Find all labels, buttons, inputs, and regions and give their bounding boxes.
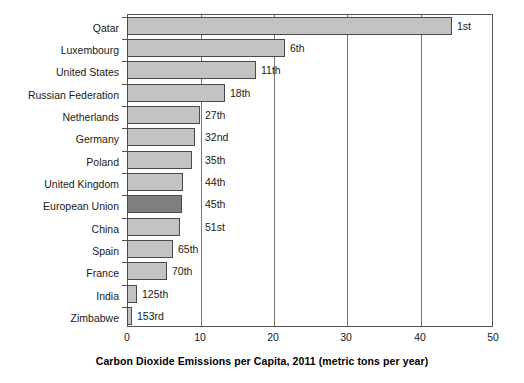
rank-label-united-states: 11th xyxy=(261,65,281,76)
xtick-label-0: 0 xyxy=(124,331,130,343)
rank-label-poland: 35th xyxy=(205,155,225,166)
xtick-label-10: 10 xyxy=(194,331,206,343)
bar-united-states xyxy=(127,61,256,79)
bars-layer: 1st 6th 11th 18th 27th 32nd 35th 44th 45… xyxy=(127,14,493,327)
rank-label-spain: 65th xyxy=(178,244,198,255)
category-label-spain: Spain xyxy=(92,246,119,257)
rank-label-united-kingdom: 44th xyxy=(205,177,225,188)
category-label-european-union: European Union xyxy=(43,201,119,212)
bar-netherlands xyxy=(127,106,200,124)
xtick-label-50: 50 xyxy=(487,331,499,343)
category-label-qatar: Qatar xyxy=(93,23,119,34)
rank-label-china: 51st xyxy=(205,222,225,233)
xtick-label-20: 20 xyxy=(267,331,279,343)
rank-label-russian-federation: 18th xyxy=(230,88,250,99)
category-label-india: India xyxy=(96,291,119,302)
category-label-united-kingdom: United Kingdom xyxy=(44,179,119,190)
bar-european-union xyxy=(127,195,182,213)
co2-per-capita-bar-chart: Qatar Luxembourg United States Russian F… xyxy=(0,0,524,383)
category-label-zimbabwe: Zimbabwe xyxy=(71,313,119,324)
bar-india xyxy=(127,285,137,303)
xtick-label-40: 40 xyxy=(414,331,426,343)
category-label-russian-federation: Russian Federation xyxy=(28,90,119,101)
rank-label-qatar: 1st xyxy=(457,21,471,32)
category-label-luxembourg: Luxembourg xyxy=(61,45,119,56)
rank-label-germany: 32nd xyxy=(205,132,228,143)
category-label-france: France xyxy=(86,268,119,279)
rank-label-netherlands: 27th xyxy=(205,110,225,121)
rank-label-zimbabwe: 153rd xyxy=(137,311,164,322)
bar-poland xyxy=(127,151,192,169)
category-label-united-states: United States xyxy=(56,67,119,78)
bar-qatar xyxy=(127,17,452,35)
rank-label-india: 125th xyxy=(142,289,168,300)
category-label-netherlands: Netherlands xyxy=(62,112,119,123)
bar-united-kingdom xyxy=(127,173,183,191)
bar-china xyxy=(127,218,180,236)
bar-spain xyxy=(127,240,173,258)
rank-label-luxembourg: 6th xyxy=(290,43,305,54)
category-label-germany: Germany xyxy=(76,134,119,145)
bar-luxembourg xyxy=(127,39,285,57)
category-label-poland: Poland xyxy=(86,157,119,168)
x-axis-title: Carbon Dioxide Emissions per Capita, 201… xyxy=(0,355,524,367)
value-axis-labels: 0 10 20 30 40 50 xyxy=(0,331,524,347)
category-label-china: China xyxy=(92,224,119,235)
bar-france xyxy=(127,262,167,280)
xtick-label-30: 30 xyxy=(340,331,352,343)
bar-germany xyxy=(127,128,195,146)
bar-russian-federation xyxy=(127,84,225,102)
rank-label-european-union: 45th xyxy=(205,199,225,210)
category-axis-labels: Qatar Luxembourg United States Russian F… xyxy=(0,14,124,327)
rank-label-france: 70th xyxy=(172,266,192,277)
bar-zimbabwe xyxy=(127,307,132,325)
